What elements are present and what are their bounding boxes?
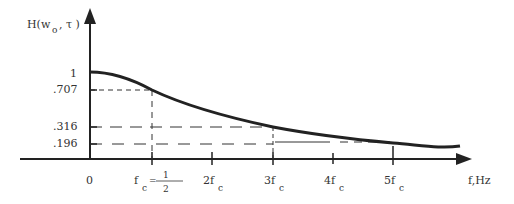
x-tick-label-3fc: 3f — [264, 174, 276, 187]
x-axis-label: f,Hz — [468, 174, 491, 187]
x-tick-label-fc-sub: c — [142, 183, 147, 193]
x-tick-label-fc-num: 1 — [163, 170, 169, 180]
y-tick-label-707: .707 — [53, 83, 78, 96]
y-tick-marks — [90, 90, 97, 144]
x-tick-label-4fc: 4f — [324, 174, 336, 187]
y-tick-label-196: .196 — [53, 137, 78, 150]
x-tick-label-5fc-sub: c — [399, 183, 404, 193]
diagram-canvas: H(w o , τ ) 1 .707 .316 .196 0 f c = 1 2… — [0, 0, 514, 204]
x-tick-label-fc-den: 2 — [163, 184, 169, 194]
x-tick-label-fc: f — [134, 174, 139, 187]
y-axis-label: H(w — [27, 18, 51, 31]
frequency-response-diagram: H(w o , τ ) 1 .707 .316 .196 0 f c = 1 2… — [0, 0, 514, 204]
origin-label: 0 — [86, 174, 93, 187]
y-tick-label-316: .316 — [53, 120, 78, 133]
y-axis-arrow-icon — [84, 8, 96, 24]
x-tick-label-4fc-sub: c — [339, 183, 344, 193]
x-tick-label-5fc: 5f — [384, 174, 396, 187]
x-tick-label-3fc-sub: c — [279, 183, 284, 193]
y-tick-label-1: 1 — [70, 67, 77, 80]
x-tick-label-fc-eq: = — [149, 176, 157, 186]
x-tick-label-2fc-sub: c — [218, 183, 223, 193]
response-curve — [90, 72, 460, 147]
y-axis-label-sub: o — [52, 25, 57, 35]
y-axis-label-tail: , τ ) — [59, 18, 80, 31]
x-tick-label-2fc: 2f — [203, 174, 215, 187]
reference-lines — [90, 90, 393, 159]
x-axis-arrow-icon — [456, 153, 472, 165]
